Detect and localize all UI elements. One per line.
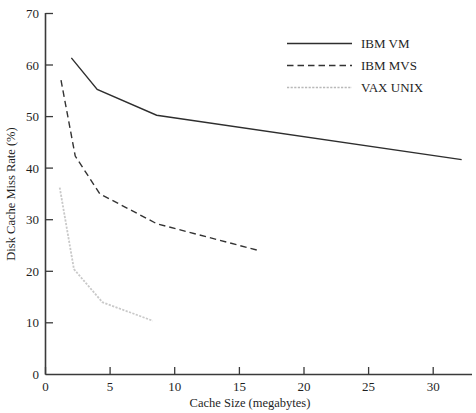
legend-label-ibm-vm: IBM VM xyxy=(361,36,410,51)
legend: IBM VM IBM MVS VAX UNIX xyxy=(287,36,424,95)
y-tick-label-50: 50 xyxy=(26,109,39,124)
series-line-vax-unix xyxy=(60,188,153,321)
x-tick-label-30: 30 xyxy=(427,379,440,394)
x-tick-label-25: 25 xyxy=(362,379,375,394)
y-tick-label-10: 10 xyxy=(26,315,39,330)
chart-figure: 70 60 50 40 30 20 10 0 0 5 10 15 20 25 xyxy=(0,0,476,413)
x-tick-label-0: 0 xyxy=(42,379,49,394)
y-axis-title: Disk Cache Miss Rate (%) xyxy=(4,127,18,260)
legend-entry-ibm-vm[interactable]: IBM VM xyxy=(287,36,410,51)
x-axis-title: Cache Size (megabytes) xyxy=(190,396,311,410)
series-line-ibm-mvs xyxy=(61,80,259,250)
y-tick-label-0: 0 xyxy=(33,367,40,382)
y-tick-label-40: 40 xyxy=(26,161,39,176)
x-tick-label-20: 20 xyxy=(298,379,311,394)
y-tick-label-30: 30 xyxy=(26,212,39,227)
y-axis-ticks xyxy=(46,14,54,323)
line-chart: 70 60 50 40 30 20 10 0 0 5 10 15 20 25 xyxy=(0,0,476,413)
y-tick-label-60: 60 xyxy=(26,58,39,73)
y-tick-label-20: 20 xyxy=(26,264,39,279)
legend-label-ibm-mvs: IBM MVS xyxy=(361,58,417,73)
x-tick-label-15: 15 xyxy=(233,379,246,394)
legend-entry-ibm-mvs[interactable]: IBM MVS xyxy=(287,58,417,73)
x-tick-label-5: 5 xyxy=(107,379,114,394)
series-line-ibm-vm xyxy=(71,58,461,160)
y-tick-label-70: 70 xyxy=(26,6,39,21)
x-axis-tick-labels: 0 5 10 15 20 25 30 xyxy=(42,379,439,394)
x-axis-ticks xyxy=(46,367,434,375)
data-series-group xyxy=(60,58,462,321)
y-axis-tick-labels: 70 60 50 40 30 20 10 0 xyxy=(26,6,39,382)
legend-entry-vax-unix[interactable]: VAX UNIX xyxy=(287,80,424,95)
x-tick-label-10: 10 xyxy=(168,379,181,394)
legend-label-vax-unix: VAX UNIX xyxy=(361,80,424,95)
